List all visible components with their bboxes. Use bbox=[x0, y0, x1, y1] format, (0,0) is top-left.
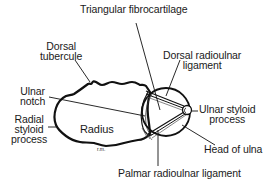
label-radius: Radius bbox=[80, 124, 114, 134]
radius-outline bbox=[55, 81, 151, 146]
label-text: ligament bbox=[163, 60, 241, 70]
label-text: process bbox=[11, 134, 47, 144]
label-triangular-fibrocartilage: Triangular fibrocartilage bbox=[80, 4, 187, 14]
label-ulnar-styloid-process: Ulnar styloid process bbox=[199, 104, 255, 124]
label-text: tubercule bbox=[40, 51, 82, 61]
dorsal-radioulnar-ligament-band bbox=[146, 91, 184, 110]
label-dorsal-radioulnar-ligament: Dorsal radioulnar ligament bbox=[163, 50, 241, 70]
ulnar-styloid-circle bbox=[183, 106, 192, 115]
label-head-of-ulna: Head of ulna bbox=[204, 144, 262, 154]
palmar-radioulnar-ligament-band bbox=[148, 112, 186, 138]
artist-initials: r.m. bbox=[97, 146, 105, 152]
label-text: Head of ulna bbox=[204, 144, 262, 154]
label-text: Palmar radioulnar ligament bbox=[118, 168, 241, 178]
label-ulnar-notch: Ulnar notch bbox=[20, 86, 45, 106]
label-dorsal-tubercule: Dorsal tubercule bbox=[40, 41, 82, 61]
distal-radioulnar-joint-diagram: r.m. Triangular fibrocartilage Dorsal tu… bbox=[0, 0, 270, 190]
label-palmar-radioulnar-ligament: Palmar radioulnar ligament bbox=[118, 168, 241, 178]
label-text: Triangular fibrocartilage bbox=[80, 4, 187, 14]
label-text: notch bbox=[20, 96, 45, 106]
label-radial-styloid-process: Radial styloid process bbox=[11, 114, 47, 144]
label-text: process bbox=[199, 114, 255, 124]
label-text: Radius bbox=[80, 124, 114, 134]
